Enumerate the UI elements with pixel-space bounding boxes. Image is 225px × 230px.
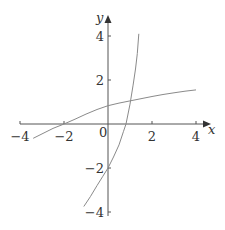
- y-axis-label: y: [95, 10, 104, 25]
- x-tick-label: −4: [10, 129, 29, 144]
- y-tick-label: −4: [85, 205, 104, 220]
- function-graph: x y 0 −4−22442−2−4: [0, 0, 225, 230]
- axes: x y 0: [20, 10, 216, 216]
- x-axis-label: x: [208, 122, 216, 137]
- origin-label: 0: [99, 125, 107, 140]
- y-axis-arrow-icon: [105, 15, 112, 23]
- x-tick-label: 4: [192, 129, 200, 144]
- curves: [33, 34, 196, 207]
- y-tick-label: −2: [85, 161, 104, 176]
- x-tick-label: −2: [54, 129, 73, 144]
- y-tick-label: 4: [96, 29, 104, 44]
- y-tick-label: 2: [96, 73, 104, 88]
- steep-curve: [84, 34, 139, 207]
- x-tick-label: 2: [148, 129, 156, 144]
